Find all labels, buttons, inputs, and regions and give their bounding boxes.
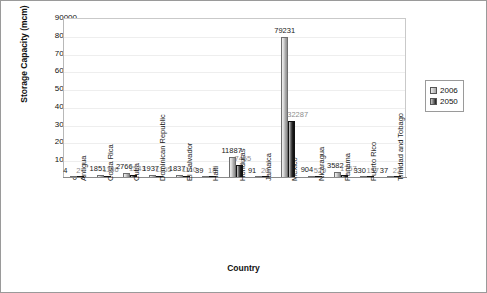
x-axis-label-el-salvador: El Salvador <box>186 143 194 181</box>
legend-swatch-2006-icon <box>430 87 437 94</box>
x-axis-title: Country <box>1 263 486 273</box>
bar-value-label-2006: 39 <box>195 167 203 175</box>
x-axis-label-puerto-rico: Puerto Rico <box>370 142 378 181</box>
x-axis-label-cuba: Cuba <box>133 163 141 181</box>
bar-group: 27661543 <box>123 18 137 178</box>
bar-value-label-2006: 330 <box>353 167 366 175</box>
x-axis-label-dominican-republic: Dominican Republic <box>159 114 167 181</box>
chart-legend: 2006 2050 <box>425 80 464 112</box>
x-axis-label-jamaica: Jamaica <box>265 153 273 181</box>
bar-value-label-2006: 904 <box>301 166 314 174</box>
x-axis-label-honduras: Honduras <box>239 148 247 181</box>
legend-item-2050[interactable]: 2050 <box>430 96 458 107</box>
bar-value-label-2006: 37 <box>380 167 388 175</box>
x-axis-label-haiti: Haiti <box>212 166 220 181</box>
x-axis-label-antigua: Antigua <box>80 156 88 181</box>
storage-capacity-bar-chart: Storage Capacity (mcm) 90000800007000060… <box>0 0 487 293</box>
legend-label-2006: 2006 <box>440 85 458 96</box>
x-axis-label-mexico: Mexico <box>291 157 299 181</box>
x-axis-label-costa-rica: Costa Rica <box>107 144 115 181</box>
bar-value-label-2050: 32287 <box>287 111 308 119</box>
bar-group: 42 <box>70 18 84 178</box>
bar-value-label-2006: 4 <box>63 167 67 175</box>
bar-2006[interactable] <box>281 37 288 178</box>
x-axis-label-trinidad-and-tobago: Trinidad and Tobago <box>397 113 405 181</box>
bar-value-label-2006: 91 <box>248 167 256 175</box>
x-axis-label-panama: Panama <box>344 153 352 181</box>
bar-group: 7923132287 <box>281 18 295 178</box>
legend-swatch-2050-icon <box>430 98 437 105</box>
bar-value-label-2006: 79231 <box>274 27 295 35</box>
bar-group: 3918 <box>202 18 216 178</box>
legend-label-2050: 2050 <box>440 96 458 107</box>
x-axis-label-nicaragua: Nicaragua <box>318 147 326 181</box>
y-axis-title: Storage Capacity (mcm) <box>19 0 29 129</box>
legend-item-2006[interactable]: 2006 <box>430 85 458 96</box>
